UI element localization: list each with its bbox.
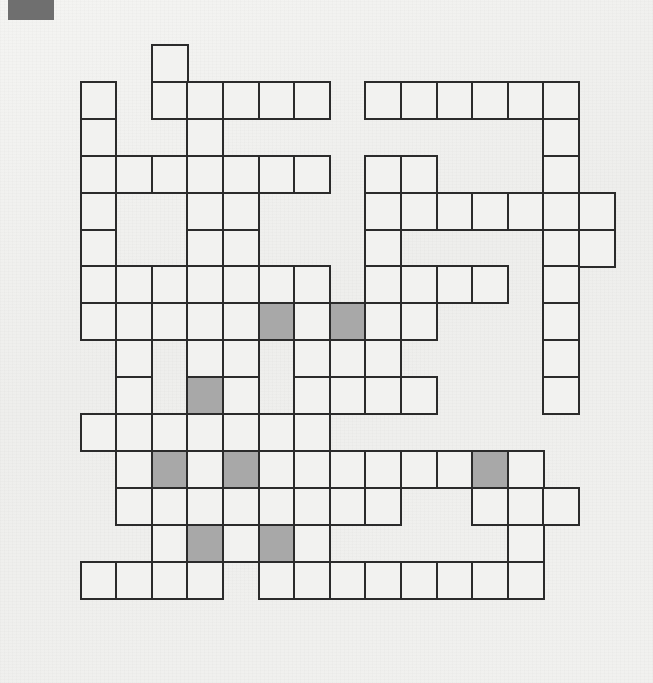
crossword-cell[interactable] <box>115 376 153 415</box>
crossword-cell[interactable] <box>293 413 331 452</box>
crossword-cell[interactable] <box>329 561 367 600</box>
crossword-cell[interactable] <box>329 339 367 378</box>
crossword-cell[interactable] <box>542 229 580 268</box>
crossword-cell[interactable] <box>578 229 616 268</box>
crossword-cell[interactable] <box>364 376 402 415</box>
crossword-cell[interactable] <box>400 302 438 341</box>
crossword-cell[interactable] <box>258 450 296 489</box>
crossword-cell[interactable] <box>186 561 224 600</box>
crossword-cell[interactable] <box>115 339 153 378</box>
crossword-cell[interactable] <box>364 339 402 378</box>
crossword-cell[interactable] <box>151 561 189 600</box>
crossword-cell[interactable] <box>186 229 224 268</box>
crossword-cell[interactable] <box>542 155 580 194</box>
crossword-cell[interactable] <box>471 561 509 600</box>
crossword-cell[interactable] <box>329 487 367 526</box>
crossword-cell[interactable] <box>186 155 224 194</box>
crossword-cell[interactable] <box>222 376 260 415</box>
crossword-cell-shaded[interactable] <box>151 450 189 489</box>
crossword-cell[interactable] <box>80 192 118 231</box>
crossword-cell[interactable] <box>400 81 438 120</box>
crossword-cell[interactable] <box>364 229 402 268</box>
crossword-cell[interactable] <box>542 487 580 526</box>
crossword-cell[interactable] <box>186 302 224 341</box>
crossword-cell[interactable] <box>186 450 224 489</box>
crossword-cell[interactable] <box>329 376 367 415</box>
crossword-cell[interactable] <box>115 302 153 341</box>
crossword-cell[interactable] <box>293 265 331 304</box>
crossword-cell[interactable] <box>258 155 296 194</box>
crossword-cell[interactable] <box>186 413 224 452</box>
crossword-cell[interactable] <box>80 561 118 600</box>
crossword-cell[interactable] <box>542 376 580 415</box>
crossword-cell[interactable] <box>80 229 118 268</box>
crossword-cell[interactable] <box>258 265 296 304</box>
crossword-cell[interactable] <box>400 155 438 194</box>
crossword-cell[interactable] <box>115 450 153 489</box>
crossword-cell[interactable] <box>400 376 438 415</box>
crossword-cell[interactable] <box>507 487 545 526</box>
crossword-cell[interactable] <box>400 265 438 304</box>
crossword-cell[interactable] <box>364 155 402 194</box>
crossword-cell[interactable] <box>115 413 153 452</box>
crossword-cell[interactable] <box>222 413 260 452</box>
crossword-cell[interactable] <box>364 192 402 231</box>
crossword-cell[interactable] <box>115 487 153 526</box>
crossword-cell[interactable] <box>222 155 260 194</box>
crossword-cell-shaded[interactable] <box>471 450 509 489</box>
crossword-cell[interactable] <box>471 81 509 120</box>
crossword-cell[interactable] <box>293 487 331 526</box>
crossword-cell[interactable] <box>293 561 331 600</box>
crossword-cell[interactable] <box>436 192 474 231</box>
crossword-cell[interactable] <box>80 413 118 452</box>
crossword-cell[interactable] <box>507 561 545 600</box>
crossword-cell[interactable] <box>400 192 438 231</box>
crossword-cell[interactable] <box>364 450 402 489</box>
crossword-cell[interactable] <box>400 450 438 489</box>
crossword-cell[interactable] <box>542 339 580 378</box>
crossword-cell[interactable] <box>364 265 402 304</box>
crossword-cell[interactable] <box>507 81 545 120</box>
crossword-cell[interactable] <box>507 450 545 489</box>
crossword-cell[interactable] <box>151 155 189 194</box>
crossword-cell[interactable] <box>329 450 367 489</box>
crossword-cell[interactable] <box>115 155 153 194</box>
crossword-grid[interactable] <box>0 0 653 683</box>
crossword-cell[interactable] <box>186 81 224 120</box>
crossword-cell[interactable] <box>222 81 260 120</box>
crossword-cell[interactable] <box>258 561 296 600</box>
crossword-cell[interactable] <box>293 302 331 341</box>
crossword-cell[interactable] <box>80 155 118 194</box>
crossword-cell[interactable] <box>151 44 189 83</box>
crossword-cell[interactable] <box>293 339 331 378</box>
crossword-cell[interactable] <box>80 265 118 304</box>
crossword-cell[interactable] <box>293 81 331 120</box>
crossword-cell[interactable] <box>222 192 260 231</box>
crossword-cell[interactable] <box>542 265 580 304</box>
crossword-cell[interactable] <box>507 524 545 563</box>
crossword-cell[interactable] <box>258 413 296 452</box>
crossword-cell[interactable] <box>507 192 545 231</box>
crossword-cell[interactable] <box>151 81 189 120</box>
crossword-cell[interactable] <box>186 192 224 231</box>
crossword-cell[interactable] <box>222 524 260 563</box>
crossword-cell[interactable] <box>258 487 296 526</box>
crossword-cell-shaded[interactable] <box>329 302 367 341</box>
crossword-cell[interactable] <box>151 302 189 341</box>
crossword-cell[interactable] <box>578 192 616 231</box>
crossword-cell[interactable] <box>471 265 509 304</box>
crossword-cell[interactable] <box>436 450 474 489</box>
crossword-cell[interactable] <box>471 487 509 526</box>
crossword-cell[interactable] <box>80 302 118 341</box>
crossword-cell[interactable] <box>80 81 118 120</box>
crossword-cell[interactable] <box>222 229 260 268</box>
crossword-cell-shaded[interactable] <box>186 524 224 563</box>
crossword-cell[interactable] <box>151 413 189 452</box>
crossword-cell[interactable] <box>222 339 260 378</box>
crossword-cell[interactable] <box>186 339 224 378</box>
crossword-cell[interactable] <box>151 487 189 526</box>
crossword-cell[interactable] <box>222 265 260 304</box>
crossword-cell[interactable] <box>222 302 260 341</box>
crossword-cell[interactable] <box>364 302 402 341</box>
crossword-cell[interactable] <box>151 265 189 304</box>
